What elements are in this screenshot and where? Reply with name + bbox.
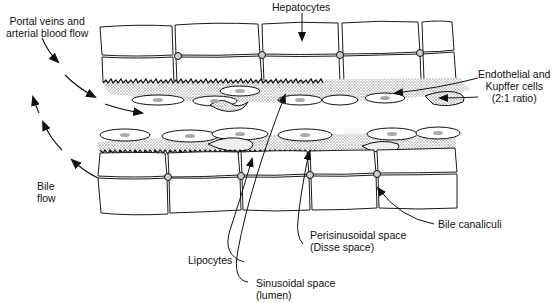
lower-hepatocyte-plate	[98, 148, 457, 215]
label-bile-flow-line1: Bile	[37, 180, 56, 192]
label-hepatocytes: Hepatocytes	[272, 1, 330, 13]
label-bile-flow-line2: flow	[37, 192, 56, 204]
label-perisinusoidal-line1: Perisinusoidal space	[310, 229, 406, 241]
label-endothelial-line2: Kupffer cells	[478, 80, 550, 92]
label-bile-canaliculi: Bile canaliculi	[438, 218, 502, 230]
label-lipocytes: Lipocytes	[188, 254, 232, 266]
label-perisinusoidal-line2: (Disse space)	[310, 241, 406, 253]
label-endothelial-line1: Endothelial and	[478, 68, 550, 80]
bile-flow-arrows	[33, 97, 98, 178]
label-sinusoidal-line1: Sinusoidal space	[256, 277, 335, 289]
label-perisinusoidal-space: Perisinusoidal space (Disse space)	[310, 229, 406, 253]
label-portal-flow-line1: Portal veins and	[6, 15, 88, 27]
label-sinusoidal-line2: (lumen)	[256, 289, 335, 301]
label-endothelial-line3: (2:1 ratio)	[478, 92, 550, 104]
upper-hepatocyte-plate	[100, 21, 456, 84]
label-portal-flow: Portal veins and arterial blood flow	[6, 15, 88, 39]
label-portal-flow-line2: arterial blood flow	[6, 27, 88, 39]
label-sinusoidal-space: Sinusoidal space (lumen)	[256, 277, 335, 301]
label-bile-flow: Bile flow	[37, 180, 56, 204]
liver-sinusoid-diagram	[0, 0, 555, 303]
label-endothelial-kupffer: Endothelial and Kupffer cells (2:1 ratio…	[478, 68, 550, 104]
